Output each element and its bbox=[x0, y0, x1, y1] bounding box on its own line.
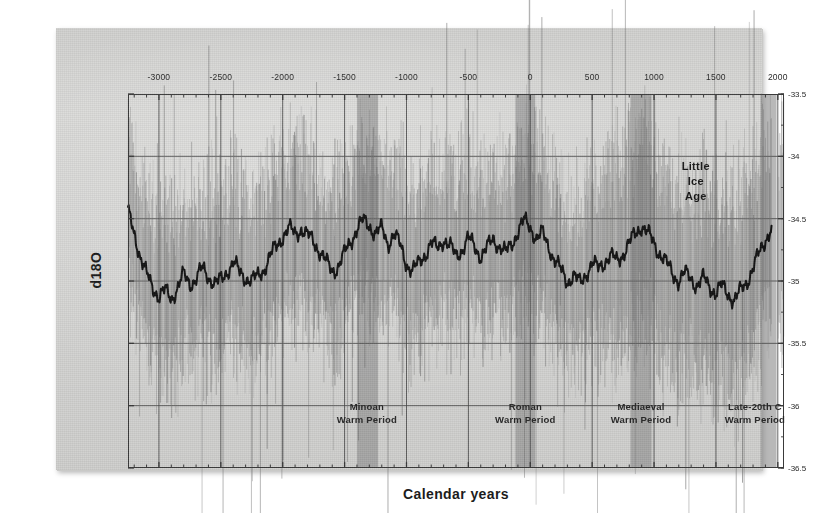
x-tick-label-10: 2000 bbox=[768, 72, 788, 82]
x-tick-label-7: 500 bbox=[585, 72, 600, 82]
period-label-line: Mediaeval bbox=[611, 400, 671, 413]
x-tick-label-3: -1500 bbox=[333, 72, 356, 82]
little-ice-age-line: Ice bbox=[682, 174, 710, 189]
plot-area: -3000-2500-2000-1500-1000-50005001000150… bbox=[128, 94, 784, 468]
scanned-chart-panel: -3000-2500-2000-1500-1000-50005001000150… bbox=[56, 28, 762, 470]
y-axis-title: d18O bbox=[88, 251, 104, 288]
x-tick-label-9: 1500 bbox=[706, 72, 726, 82]
x-tick-label-1: -2500 bbox=[209, 72, 232, 82]
y-tick-label-0: -33.5 bbox=[788, 90, 806, 99]
period-label-line: Roman bbox=[495, 400, 555, 413]
period-label-line: Warm Period bbox=[725, 413, 785, 426]
y-tick-label-6: -36.5 bbox=[788, 464, 806, 473]
figure-root: -3000-2500-2000-1500-1000-50005001000150… bbox=[0, 0, 819, 513]
period-label-mediaeval: MediaevalWarm Period bbox=[611, 400, 671, 426]
period-label-line: Late-20th C bbox=[725, 400, 785, 413]
x-axis-title: Calendar years bbox=[128, 486, 784, 502]
period-label-line: Warm Period bbox=[337, 413, 397, 426]
y-tick-label-2: -34.5 bbox=[788, 214, 806, 223]
period-label-line: Warm Period bbox=[611, 413, 671, 426]
x-tick-label-5: -500 bbox=[459, 72, 477, 82]
y-tick-label-1: -34 bbox=[788, 152, 800, 161]
little-ice-age-line: Age bbox=[682, 189, 710, 204]
period-label-roman: RomanWarm Period bbox=[495, 400, 555, 426]
period-label-line: Warm Period bbox=[495, 413, 555, 426]
period-label-minoan: MinoanWarm Period bbox=[337, 400, 397, 426]
x-tick-label-2: -2000 bbox=[271, 72, 294, 82]
plot-frame bbox=[128, 94, 784, 468]
little-ice-age-line: Little bbox=[682, 159, 710, 174]
y-tick-label-4: -35.5 bbox=[788, 339, 806, 348]
period-label-line: Minoan bbox=[337, 400, 397, 413]
x-tick-label-6: 0 bbox=[528, 72, 533, 82]
x-tick-label-4: -1000 bbox=[395, 72, 418, 82]
period-label-late-20th-c: Late-20th CWarm Period bbox=[725, 400, 785, 426]
x-tick-label-8: 1000 bbox=[644, 72, 664, 82]
y-tick-label-3: -35 bbox=[788, 277, 800, 286]
little-ice-age-annotation: LittleIceAge bbox=[682, 159, 710, 204]
x-tick-label-0: -3000 bbox=[148, 72, 171, 82]
y-tick-label-5: -36 bbox=[788, 401, 800, 410]
